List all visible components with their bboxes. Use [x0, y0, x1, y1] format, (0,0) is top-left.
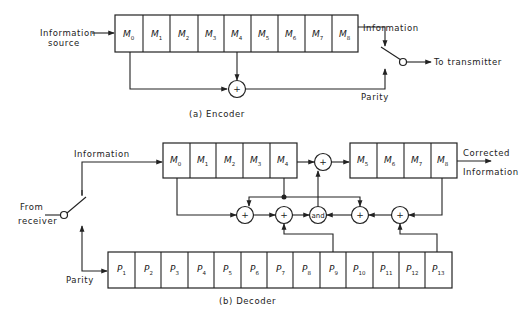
enc-parity-path	[246, 69, 385, 89]
enc-adder: +	[229, 81, 246, 98]
dec-p9-tap	[284, 224, 333, 252]
dec-input-label: From	[20, 202, 43, 212]
dec-parity-label: Parity	[66, 275, 94, 285]
dec-parity-register: P1 P2 P3 P4 P5 P6 P7 P8 P9 P10 P11 P12 P…	[108, 252, 452, 288]
dec-m0-tap	[177, 178, 236, 215]
dec-switch-arm	[67, 197, 86, 213]
dec-adder-4: +	[392, 207, 409, 224]
dec-adder-3: +	[352, 207, 369, 224]
dec-input-label-2: receiver	[18, 216, 57, 226]
dec-and-gate: and	[310, 207, 327, 224]
decoder-caption: (b) Decoder	[219, 296, 276, 306]
dec-adder-2-symbol: +	[280, 210, 288, 220]
enc-parity-label: Parity	[361, 92, 389, 102]
encoder-input-label: Information	[40, 28, 96, 38]
enc-m0-tap	[130, 52, 227, 89]
enc-output-label: To transmitter	[433, 57, 502, 67]
dec-adder-3-symbol: +	[356, 210, 364, 220]
enc-switch-pivot	[400, 59, 407, 66]
dec-adder-1-symbol: +	[241, 210, 249, 220]
encoder-register: M0 M1 M2 M3 M4 M5 M6 M7 M8	[115, 15, 358, 52]
dec-m8-tap	[409, 178, 442, 215]
dec-tap-right	[284, 197, 360, 206]
dec-p13-tap	[400, 224, 437, 252]
enc-information-label: Information	[363, 23, 419, 33]
encoder-caption: (a) Encoder	[189, 109, 245, 119]
dec-correction-adder-symbol: +	[319, 157, 327, 167]
dec-output-label-2: Information	[463, 167, 519, 177]
dec-info-path	[82, 162, 162, 195]
dec-switch-pivot	[61, 212, 68, 219]
dec-correction-adder: +	[315, 154, 332, 171]
enc-switch-arm	[381, 47, 401, 60]
encoder: Information source M0 M1 M2 M3 M4 M5 M6 …	[40, 15, 502, 119]
encoder-input-label-2: source	[48, 38, 80, 48]
decoder: Information From receiver Parity M0 M1 M…	[18, 143, 519, 306]
dec-adder-1: +	[237, 207, 254, 224]
dec-adder-4-symbol: +	[396, 210, 404, 220]
enc-adder-symbol: +	[233, 84, 241, 94]
dec-adder-2: +	[276, 207, 293, 224]
dec-parity-path	[82, 226, 107, 271]
dec-tap-left	[249, 197, 284, 206]
dec-upper-register: M0 M1 M2 M3 M4	[163, 143, 297, 178]
dec-output-label: Corrected	[463, 148, 510, 158]
dec-information-label: Information	[74, 149, 130, 159]
diagram-canvas: Information source M0 M1 M2 M3 M4 M5 M6 …	[0, 0, 528, 311]
dec-lower-register: M5 M6 M7 M8	[350, 143, 457, 178]
dec-and-gate-label: and	[311, 212, 324, 220]
